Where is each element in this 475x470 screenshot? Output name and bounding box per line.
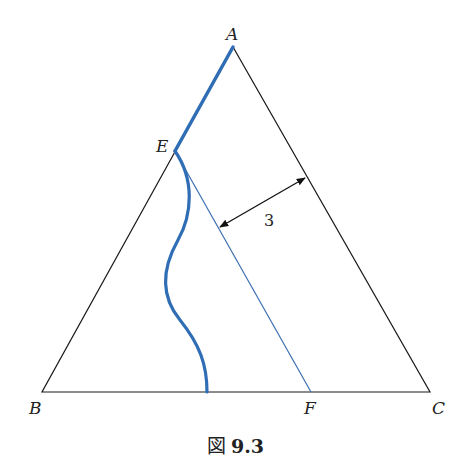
distance-arrow	[220, 178, 305, 227]
distance-label: 3	[264, 211, 274, 230]
segment-ae	[175, 47, 233, 151]
label-e: E	[155, 136, 169, 156]
caption-number: 9.3	[231, 435, 264, 457]
label-f: F	[303, 398, 317, 418]
caption-prefix: 図	[207, 435, 226, 457]
figure-canvas: A E B F C 3 図 9.3	[0, 0, 475, 470]
segment-ef	[175, 151, 311, 392]
label-c: C	[432, 398, 445, 418]
label-a: A	[224, 24, 238, 44]
triangle-abc	[42, 47, 430, 392]
label-b: B	[28, 398, 42, 418]
wavy-curve	[165, 151, 207, 392]
